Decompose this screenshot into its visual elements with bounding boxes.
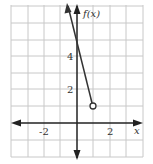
y-axis	[74, 4, 81, 160]
y-axis-down-arrow-icon	[74, 150, 81, 160]
y-axis-label: f(x)	[82, 8, 100, 19]
line-arrow-icon	[65, 3, 72, 14]
x-axis-label: x	[134, 125, 140, 136]
function-graph: f(x) x -2 2 2 4	[0, 0, 153, 164]
x-tick-label-neg2: -2	[39, 126, 49, 137]
y-tick-label-2: 2	[67, 84, 73, 95]
x-tick-label-2: 2	[107, 126, 113, 137]
open-circle-endpoint	[90, 103, 96, 109]
y-tick-label-4: 4	[67, 51, 73, 62]
x-axis-left-arrow-icon	[11, 120, 21, 127]
